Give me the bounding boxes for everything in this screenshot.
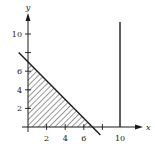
chart-canvas: 2 4 6 10 2 4 6 10 y x [0, 0, 155, 150]
x-axis-arrow-icon [135, 125, 143, 130]
y-tick-label-10: 10 [12, 30, 22, 39]
x-tick-label-2: 2 [44, 134, 49, 143]
y-tick-label-6: 6 [17, 67, 22, 76]
x-axis-label: x [146, 123, 151, 132]
y-tick-label-2: 2 [17, 104, 22, 113]
x-tick-label-4: 4 [63, 134, 68, 143]
y-tick-label-4: 4 [17, 86, 22, 95]
y-axis-arrow-icon [26, 13, 31, 21]
y-axis-label: y [25, 3, 31, 12]
x-tick-label-6: 6 [81, 134, 86, 143]
x-tick-label-10: 10 [115, 134, 125, 143]
